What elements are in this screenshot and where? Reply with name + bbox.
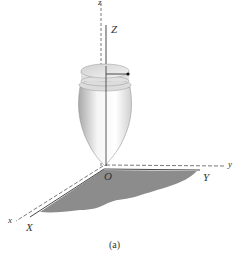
top-body — [79, 87, 132, 166]
spinning-top-diagram — [0, 0, 243, 259]
label-origin: O — [104, 171, 112, 182]
label-x-fixed: x — [8, 216, 12, 225]
y-axis-fixed — [106, 165, 226, 166]
label-Z-body: Z — [111, 24, 117, 35]
label-z-fixed: z — [98, 0, 102, 7]
figure-caption: (a) — [109, 240, 120, 250]
ground-plane-shade — [40, 170, 197, 212]
label-X-body: X — [26, 222, 33, 233]
Y-axis-body — [104, 169, 200, 170]
label-Y-body: Y — [203, 172, 209, 183]
label-y-fixed: y — [228, 160, 232, 169]
rim-point — [126, 72, 129, 75]
